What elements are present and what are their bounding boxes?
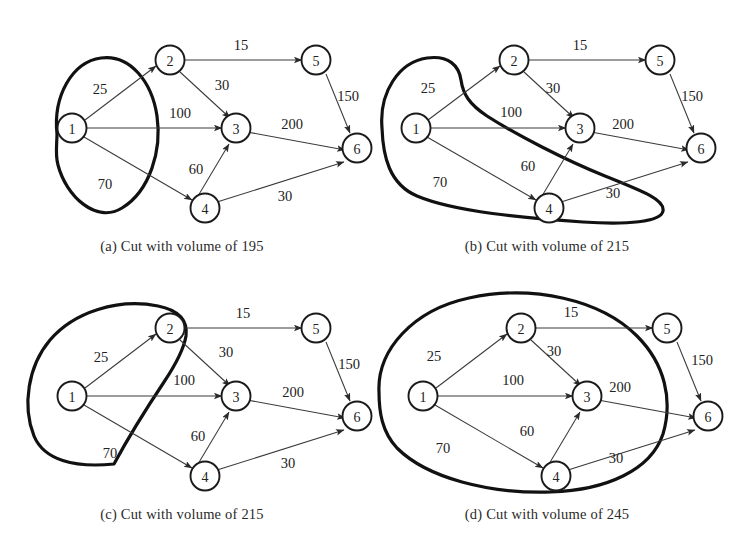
- panel-c-graph: 1 2 3 4 5 6 25 100 70 15 30 200 60 30 15…: [0, 268, 364, 508]
- edge-label-2-3: 30: [219, 344, 234, 360]
- edge-label-2-5: 15: [564, 304, 579, 320]
- node-3-label: 3: [233, 122, 240, 137]
- edge-label-1-3: 100: [173, 372, 195, 388]
- node-3-label: 3: [577, 122, 584, 137]
- edge-4-3: [542, 144, 573, 196]
- node-4-label: 4: [202, 202, 209, 217]
- edge-label-4-3: 60: [189, 161, 204, 177]
- panel-b-caption: (b) Cut with volume of 215: [365, 238, 729, 255]
- node-3-label: 3: [233, 390, 240, 405]
- edge-label-4-6: 30: [609, 450, 624, 466]
- node-4-label: 4: [546, 202, 553, 217]
- edges-b: [427, 60, 694, 202]
- node-2-label: 2: [511, 54, 518, 69]
- panel-a-caption: (a) Cut with volume of 195: [0, 238, 364, 255]
- nodes-a: 1 2 3 4 5 6: [58, 46, 372, 223]
- edge-1-2: [436, 334, 507, 388]
- node-5-label: 5: [313, 322, 320, 337]
- node-1-label: 1: [413, 122, 420, 137]
- edge-label-2-3: 30: [215, 77, 230, 93]
- edge-label-5-6: 150: [691, 352, 713, 368]
- edge-3-6: [247, 132, 345, 150]
- node-4-label: 4: [553, 470, 560, 485]
- node-6-label: 6: [354, 410, 361, 425]
- edge-label-5-6: 150: [338, 356, 360, 372]
- node-6-label: 6: [705, 410, 712, 425]
- edge-label-2-3: 30: [547, 343, 562, 359]
- edge-label-1-2: 25: [94, 349, 109, 365]
- edge-label-1-4: 70: [103, 445, 118, 461]
- edge-label-4-6: 30: [606, 185, 621, 201]
- edge-label-1-4: 70: [436, 440, 451, 456]
- edge-1-4: [84, 405, 192, 468]
- edge-4-6: [561, 162, 688, 202]
- panel-c: 1 2 3 4 5 6 25 100 70 15 30 200 60 30 15…: [0, 268, 364, 536]
- edge-label-1-2: 25: [421, 80, 436, 96]
- node-1-label: 1: [420, 390, 427, 405]
- edge-label-3-6: 200: [612, 116, 634, 132]
- node-2-label: 2: [518, 322, 525, 337]
- panel-b-graph: 1 2 3 4 5 6 25 100 70 15 30 200 60 30 15…: [365, 0, 729, 240]
- panel-a-graph: 1 2 3 4 5 6 25 100 70 15 30 200 60 30 15…: [0, 0, 364, 240]
- edge-label-1-3: 100: [169, 105, 191, 121]
- edge-label-4-6: 30: [278, 188, 293, 204]
- edge-label-4-3: 60: [521, 158, 536, 174]
- edge-label-4-3: 60: [520, 423, 535, 439]
- edge-4-6: [568, 430, 695, 470]
- node-5-label: 5: [657, 54, 664, 69]
- node-3-label: 3: [584, 390, 591, 405]
- edge-label-5-6: 150: [681, 88, 703, 104]
- edge-label-3-6: 200: [282, 384, 304, 400]
- edge-label-4-6: 30: [281, 455, 296, 471]
- edge-label-5-6: 150: [337, 88, 359, 104]
- edge-label-2-5: 15: [573, 37, 588, 53]
- panel-a: 1 2 3 4 5 6 25 100 70 15 30 200 60 30 15…: [0, 0, 364, 268]
- node-6-label: 6: [698, 142, 705, 157]
- node-5-label: 5: [313, 54, 320, 69]
- edge-5-6: [677, 342, 701, 401]
- edge-label-1-2: 25: [427, 348, 442, 364]
- edge-label-1-4: 70: [433, 174, 448, 190]
- edge-label-1-3: 100: [500, 104, 522, 120]
- node-6-label: 6: [354, 142, 361, 157]
- node-1-label: 1: [69, 122, 76, 137]
- edge-4-3: [549, 412, 580, 464]
- node-5-label: 5: [664, 322, 671, 337]
- nodes-b: 1 2 3 4 5 6: [402, 46, 716, 223]
- figure-canvas: 1 2 3 4 5 6 25 100 70 15 30 200 60 30 15…: [0, 0, 729, 537]
- edge-1-2: [428, 66, 500, 120]
- edge-3-6: [247, 400, 345, 418]
- panel-d: 1 2 3 4 5 6 25 100 70 15 30 200 60 30 15…: [365, 268, 729, 536]
- node-1-label: 1: [69, 390, 76, 405]
- edge-1-4: [427, 137, 536, 200]
- edge-label-1-4: 70: [98, 176, 113, 192]
- panel-b: 1 2 3 4 5 6 25 100 70 15 30 200 60 30 15…: [365, 0, 729, 268]
- edge-label-3-6: 200: [609, 379, 631, 395]
- nodes-d: 1 2 3 4 5 6: [409, 314, 723, 491]
- node-2-label: 2: [167, 54, 174, 69]
- panel-d-caption: (d) Cut with volume of 245: [365, 506, 729, 523]
- edge-label-3-6: 200: [281, 116, 303, 132]
- edge-label-1-2: 25: [93, 81, 108, 97]
- edge-label-2-3: 30: [546, 80, 561, 96]
- node-2-label: 2: [167, 322, 174, 337]
- panel-c-caption: (c) Cut with volume of 215: [0, 506, 364, 523]
- panel-d-graph: 1 2 3 4 5 6 25 100 70 15 30 200 60 30 15…: [365, 268, 729, 508]
- edge-3-6: [598, 400, 696, 418]
- node-4-label: 4: [202, 470, 209, 485]
- edge-label-2-5: 15: [234, 37, 249, 53]
- edges-d: [435, 328, 701, 470]
- edge-3-6: [591, 132, 689, 150]
- edge-label-2-5: 15: [236, 305, 251, 321]
- edge-label-1-3: 100: [502, 372, 524, 388]
- edge-label-4-3: 60: [191, 428, 206, 444]
